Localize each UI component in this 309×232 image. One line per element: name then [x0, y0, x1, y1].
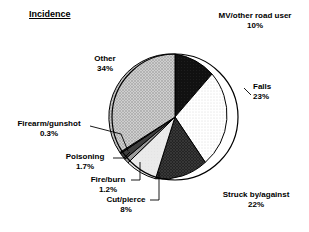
slice-label-cut-pierce: Cut/pierce 8% [100, 195, 152, 214]
slice-label-other: Other 34% [83, 54, 127, 73]
leader-line-falls [244, 88, 251, 95]
slice-label-fire-burn: Fire/burn 1.2% [84, 175, 132, 194]
slice-label-name: Cut/pierce [100, 195, 152, 205]
slice-label-falls: Falls 23% [253, 82, 299, 101]
slice-label-value: 10% [205, 21, 305, 31]
slice-label-name: Other [83, 54, 127, 64]
slice-label-value: 22% [206, 200, 306, 210]
slice-label-value: 8% [100, 205, 152, 215]
slice-label-value: 34% [83, 64, 127, 74]
slice-label-name: Firearm/gunshot [10, 119, 88, 129]
pie-chart-figure: Incidence [0, 0, 309, 232]
slice-label-name: Struck by/against [206, 190, 306, 200]
slice-label-value: 0.3% [10, 129, 88, 139]
slice-label-name: Fire/burn [84, 175, 132, 185]
slice-label-firearm-gunshot: Firearm/gunshot 0.3% [10, 119, 88, 138]
slice-label-value: 1.7% [57, 162, 113, 172]
slice-label-value: 23% [253, 92, 299, 102]
slice-label-poisoning: Poisoning 1.7% [57, 152, 113, 171]
slice-label-struck-by-against: Struck by/against 22% [206, 190, 306, 209]
slice-label-name: MV/other road user [205, 11, 305, 21]
slice-label-value: 1.2% [84, 185, 132, 195]
slice-label-name: Falls [253, 82, 299, 92]
slice-label-mv-other-road-user: MV/other road user 10% [205, 11, 305, 30]
slice-label-name: Poisoning [57, 152, 113, 162]
